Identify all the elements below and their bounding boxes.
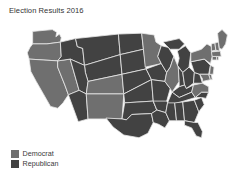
legend-label-democrat: Democrat	[23, 150, 54, 158]
state-nj[interactable]	[210, 65, 214, 74]
legend-swatch-republican	[11, 160, 19, 168]
state-az[interactable]	[68, 90, 88, 121]
election-map-figure: Election Results 2016 Democrat Republica…	[0, 0, 237, 178]
legend-item-republican[interactable]: Republican	[11, 159, 91, 169]
state-or[interactable]	[27, 42, 61, 61]
state-nm[interactable]	[86, 94, 124, 119]
state-fl[interactable]	[185, 121, 203, 138]
states-group	[27, 30, 227, 138]
map-legend: Democrat Republican	[11, 149, 91, 169]
legend-swatch-democrat	[11, 150, 19, 158]
state-ri[interactable]	[217, 56, 219, 60]
legend-item-democrat[interactable]: Democrat	[11, 149, 91, 159]
state-wa[interactable]	[33, 30, 62, 44]
state-ct[interactable]	[212, 56, 216, 60]
page-title: Election Results 2016	[9, 6, 84, 15]
state-mn[interactable]	[142, 33, 162, 67]
state-ma[interactable]	[211, 51, 221, 56]
state-me[interactable]	[218, 30, 228, 50]
us-choropleth-map	[13, 24, 231, 146]
legend-label-republican: Republican	[23, 160, 59, 168]
map-svg	[13, 24, 231, 146]
